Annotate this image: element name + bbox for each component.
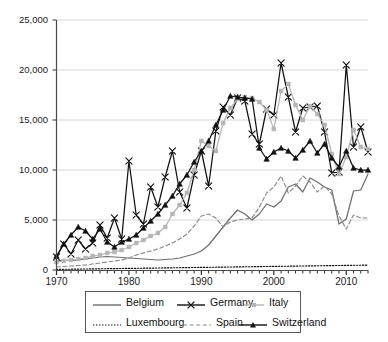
y-axis-label: 25,000 <box>0 15 48 25</box>
x-axis-label: 1990 <box>176 277 226 287</box>
legend-swatch-germany <box>176 297 206 309</box>
y-axis-label: 20,000 <box>0 65 48 75</box>
legend-swatch-italy <box>243 297 265 309</box>
y-axis-label: 0 <box>0 265 48 275</box>
x-axis-label: 1980 <box>104 277 154 287</box>
legend-swatch-belgium <box>92 297 122 309</box>
y-axis-label: 10,000 <box>0 165 48 175</box>
legend-swatch-luxembourg <box>92 317 122 329</box>
series-markers-italy <box>55 82 370 264</box>
legend-label-italy: Italy <box>269 297 288 308</box>
legend-item-luxembourg[interactable]: Luxembourg <box>92 313 184 332</box>
legend-item-germany[interactable]: Germany <box>176 293 253 312</box>
legend-label-belgium: Belgium <box>126 297 164 308</box>
legend-row-2: Luxembourg Spain Switzerland <box>86 313 300 332</box>
series-line-belgium <box>57 174 369 261</box>
chart-legend: Belgium Germany Italy Luxembourg Spain <box>85 291 301 333</box>
series-markers-switzerland <box>54 93 371 258</box>
legend-item-italy[interactable]: Italy <box>243 293 288 312</box>
series-line-luxembourg <box>57 265 369 269</box>
y-axis-label: 5,000 <box>0 215 48 225</box>
legend-item-spain[interactable]: Spain <box>182 313 243 332</box>
legend-swatch-switzerland <box>238 317 268 329</box>
data-series-layer <box>53 60 371 270</box>
y-axis-label: 15,000 <box>0 115 48 125</box>
legend-item-belgium[interactable]: Belgium <box>92 293 164 312</box>
legend-swatch-spain <box>182 317 212 329</box>
x-axis-label: 2000 <box>249 277 299 287</box>
legend-item-switzerland[interactable]: Switzerland <box>238 313 326 332</box>
x-axis-label: 1970 <box>32 277 82 287</box>
legend-row-1: Belgium Germany Italy <box>86 293 300 312</box>
x-axis-label: 2010 <box>321 277 371 287</box>
line-chart: 25,00020,00015,00010,0005,0000 197019801… <box>0 0 388 342</box>
legend-label-luxembourg: Luxembourg <box>126 317 184 328</box>
legend-label-switzerland: Switzerland <box>272 317 326 328</box>
